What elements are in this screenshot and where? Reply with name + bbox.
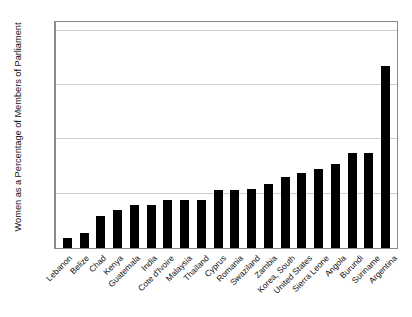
bar	[80, 233, 89, 248]
bar	[230, 190, 239, 248]
bar	[180, 200, 189, 248]
bar	[281, 177, 290, 248]
bar	[314, 169, 323, 248]
figure: Women as a Percentage of Members of Parl…	[0, 0, 412, 317]
bar	[348, 153, 357, 248]
bar	[331, 164, 340, 248]
bar	[197, 200, 206, 248]
plot-area	[55, 21, 398, 249]
bar	[297, 173, 306, 248]
bar-series	[56, 22, 397, 248]
bar	[264, 184, 273, 248]
bar	[113, 210, 122, 248]
bar	[381, 66, 390, 248]
y-axis-title: Women as a Percentage of Members of Parl…	[13, 1, 23, 253]
bar	[163, 200, 172, 248]
bar	[214, 190, 223, 248]
bar	[130, 205, 139, 248]
bar	[63, 238, 72, 248]
bar	[364, 153, 373, 248]
bar	[147, 205, 156, 248]
bar	[247, 189, 256, 248]
bar	[96, 216, 105, 248]
